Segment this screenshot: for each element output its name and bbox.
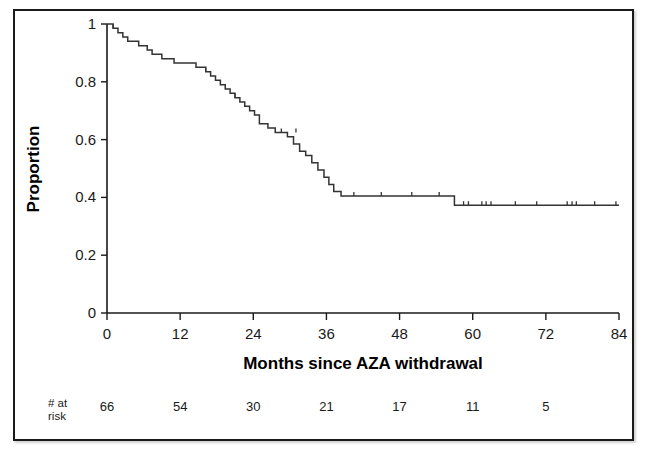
x-tick-label-3: 36 <box>318 325 335 342</box>
y-axis-ticks <box>101 24 107 313</box>
x-tick-label-1: 12 <box>172 325 189 342</box>
y-tick-label-5: 1 <box>88 15 96 32</box>
risk-count-6: 5 <box>542 399 549 414</box>
risk-table-values: 6654302117115 <box>100 399 550 414</box>
risk-count-0: 66 <box>100 399 114 414</box>
y-axis-title: Proportion <box>24 126 43 213</box>
x-axis-ticks <box>107 313 619 320</box>
survival-plot: 00.20.40.60.81 012243648607284 Proportio… <box>15 11 632 439</box>
y-tick-label-1: 0.2 <box>75 246 96 263</box>
x-tick-label-7: 84 <box>611 325 628 342</box>
risk-table: # at risk 6654302117115 <box>48 397 549 422</box>
x-tick-label-4: 48 <box>391 325 408 342</box>
risk-count-1: 54 <box>173 399 187 414</box>
risk-table-label-line2: risk <box>48 410 66 422</box>
x-axis-tick-labels: 012243648607284 <box>103 325 628 342</box>
x-tick-label-6: 72 <box>538 325 555 342</box>
risk-count-4: 17 <box>392 399 406 414</box>
y-tick-label-3: 0.6 <box>75 131 96 148</box>
x-tick-label-5: 60 <box>464 325 481 342</box>
risk-count-2: 30 <box>246 399 260 414</box>
survival-curve-line <box>107 24 619 205</box>
figure-border-frame: 00.20.40.60.81 012243648607284 Proportio… <box>13 9 634 441</box>
y-tick-label-0: 0 <box>88 304 96 321</box>
y-tick-label-4: 0.8 <box>75 73 96 90</box>
figure-root: 00.20.40.60.81 012243648607284 Proportio… <box>0 0 653 452</box>
risk-table-label-line1: # at <box>48 397 68 409</box>
x-axis-title: Months since AZA withdrawal <box>243 354 483 373</box>
y-axis-tick-labels: 00.20.40.60.81 <box>75 15 96 321</box>
plot-axes <box>107 24 619 313</box>
x-tick-label-0: 0 <box>103 325 111 342</box>
x-tick-label-2: 24 <box>245 325 262 342</box>
censor-marks-group <box>113 24 616 205</box>
risk-count-5: 11 <box>466 399 480 414</box>
risk-count-3: 21 <box>319 399 333 414</box>
y-tick-label-2: 0.4 <box>75 188 96 205</box>
